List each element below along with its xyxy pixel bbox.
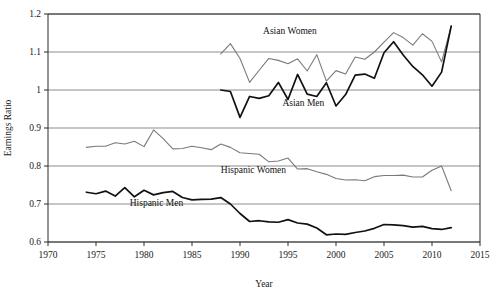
x-tick-label-1985: 1985 <box>183 250 202 260</box>
y-tick-label-0.7: 0.7 <box>29 199 41 209</box>
series-line-hispanic-women <box>86 130 451 191</box>
y-tick-label-1: 1 <box>36 85 41 95</box>
series-line-hispanic-men <box>86 188 451 235</box>
x-tick-label-2005: 2005 <box>375 250 394 260</box>
series-label-asian-men: Asian Men <box>282 98 324 108</box>
y-tick-label-1.1: 1.1 <box>29 47 41 57</box>
x-tick-label-1970: 1970 <box>39 250 58 260</box>
series-annotations: Asian WomenAsian MenHispanic WomenHispan… <box>130 26 325 209</box>
earnings-ratio-chart: 0.60.70.80.911.11.2 19701975198019851990… <box>0 0 497 295</box>
x-tick-label-1990: 1990 <box>231 250 250 260</box>
y-axis-ticks: 0.60.70.80.911.11.2 <box>29 9 48 247</box>
x-axis-title: Year <box>255 279 273 289</box>
series-label-asian-women: Asian Women <box>263 26 317 36</box>
series-label-hispanic-men: Hispanic Men <box>130 198 184 208</box>
x-tick-label-1975: 1975 <box>87 250 106 260</box>
x-tick-label-2015: 2015 <box>471 250 490 260</box>
y-axis-title: Earnings Ratio <box>3 99 13 156</box>
y-tick-label-0.6: 0.6 <box>29 237 41 247</box>
y-tick-label-0.8: 0.8 <box>29 161 41 171</box>
x-tick-label-2000: 2000 <box>327 250 346 260</box>
series-line-asian-women <box>221 26 451 82</box>
x-tick-label-1995: 1995 <box>279 250 298 260</box>
x-axis-ticks: 1970197519801985199019952000200520102015 <box>39 242 490 260</box>
y-tick-label-1.2: 1.2 <box>29 9 41 19</box>
grid-lines <box>48 14 480 242</box>
x-tick-label-2010: 2010 <box>423 250 442 260</box>
y-tick-label-0.9: 0.9 <box>29 123 41 133</box>
x-tick-label-1980: 1980 <box>135 250 154 260</box>
series-label-hispanic-women: Hispanic Women <box>221 165 287 175</box>
chart-canvas: 0.60.70.80.911.11.2 19701975198019851990… <box>0 0 497 295</box>
